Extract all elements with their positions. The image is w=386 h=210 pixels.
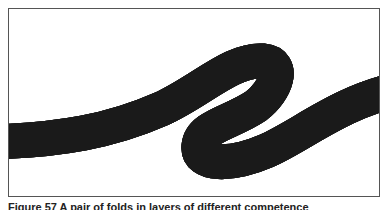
fold-diagram	[8, 8, 380, 197]
figure-caption: Figure 57 A pair of folds in layers of d…	[8, 200, 380, 210]
figure-frame	[8, 8, 380, 197]
folded-layer	[8, 61, 380, 162]
